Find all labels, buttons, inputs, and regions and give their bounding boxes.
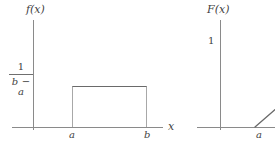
pdf-height-numerator: 1 bbox=[9, 62, 33, 74]
pdf-uniform-rectangle bbox=[72, 86, 147, 127]
pdf-x-axis bbox=[12, 127, 163, 128]
cdf-x-axis bbox=[197, 127, 275, 128]
uniform-distribution-figure: f(x) x 1 b − a a b F(x) 1 a bbox=[0, 0, 275, 147]
cdf-ramp-line bbox=[185, 0, 275, 147]
cdf-tick-label-a: a bbox=[256, 130, 262, 140]
pdf-tick-label-a: a bbox=[69, 130, 75, 140]
pdf-y-axis-label: f(x) bbox=[26, 4, 45, 15]
cdf-y-max-label: 1 bbox=[208, 36, 214, 46]
pdf-y-axis bbox=[33, 20, 34, 130]
cdf-y-axis bbox=[220, 20, 221, 130]
cdf-y-axis-label: F(x) bbox=[207, 4, 229, 15]
pdf-panel: f(x) x 1 b − a a b bbox=[0, 0, 185, 147]
pdf-height-fraction-label: 1 b − a bbox=[9, 62, 33, 97]
pdf-tick-label-b: b bbox=[144, 130, 150, 140]
pdf-height-denominator: b − a bbox=[9, 75, 33, 97]
cdf-panel: F(x) 1 a bbox=[185, 0, 275, 147]
pdf-x-axis-label: x bbox=[168, 121, 174, 132]
